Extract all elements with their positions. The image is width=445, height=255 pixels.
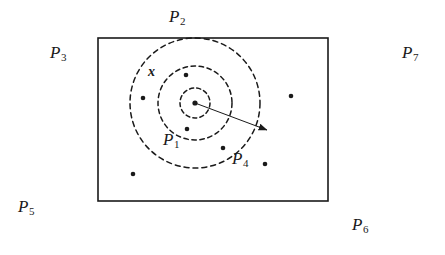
x-marker-text: x [148, 64, 155, 79]
partition-label-subscript: 4 [242, 157, 248, 169]
data-point-5 [263, 162, 268, 167]
x-marker-label: x [148, 65, 155, 79]
partition-label-p2: P2 [169, 8, 185, 27]
partition-label-base: P [18, 197, 28, 216]
data-point-6 [131, 172, 136, 177]
partition-label-subscript: 2 [179, 15, 185, 27]
data-point-3 [185, 127, 190, 132]
partition-label-p3: P3 [50, 44, 66, 63]
partition-label-subscript: 3 [60, 51, 66, 63]
partition-label-subscript: 5 [28, 205, 34, 217]
partition-label-p7: P7 [402, 44, 418, 63]
partition-label-p1: P1 [163, 131, 179, 150]
data-point-1 [184, 73, 189, 78]
partition-label-base: P [402, 43, 412, 62]
partition-label-p4: P4 [232, 150, 248, 169]
partition-label-subscript: 6 [362, 223, 368, 235]
boundary-rectangle [98, 38, 328, 201]
data-point-4 [221, 146, 226, 151]
partition-label-p5: P5 [18, 198, 34, 217]
data-point-7 [289, 94, 294, 99]
partition-label-base: P [232, 149, 242, 168]
partition-label-base: P [50, 43, 60, 62]
radius-arrow [195, 103, 267, 130]
partition-label-base: P [163, 130, 173, 149]
partition-label-subscript: 1 [173, 138, 179, 150]
data-point-2 [141, 96, 146, 101]
partition-label-base: P [169, 7, 179, 26]
diagram-svg [0, 0, 445, 255]
partition-label-base: P [352, 215, 362, 234]
center-point [192, 100, 197, 105]
figure-canvas: x P2P3P7P1P4P5P6 [0, 0, 445, 255]
partition-label-p6: P6 [352, 216, 368, 235]
data-points [131, 73, 294, 177]
partition-label-subscript: 7 [412, 51, 418, 63]
